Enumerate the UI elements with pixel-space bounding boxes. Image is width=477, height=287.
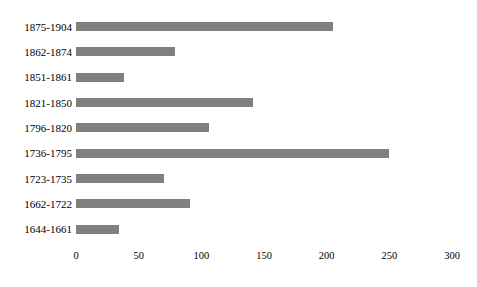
x-tick-label: 200: [319, 250, 335, 261]
x-tick-label: 100: [193, 250, 209, 261]
category-label: 1875-1904: [2, 21, 72, 33]
category-label: 1851-1861: [2, 71, 72, 83]
bar: [76, 149, 389, 158]
category-label: 1821-1850: [2, 97, 72, 109]
bar-row: [76, 217, 452, 242]
bar: [76, 47, 175, 56]
x-tick-label: 50: [133, 250, 144, 261]
bar: [76, 22, 333, 31]
bar-row: [76, 39, 452, 64]
bar-chart: 1875-19041862-18741851-18611821-18501796…: [0, 0, 477, 287]
x-tick-label: 250: [381, 250, 397, 261]
value-axis-labels: 050100150200250300: [76, 250, 452, 270]
bar: [76, 225, 119, 234]
bar-row: [76, 65, 452, 90]
category-label: 1723-1735: [2, 173, 72, 185]
bar-row: [76, 90, 452, 115]
bar: [76, 174, 164, 183]
bar-row: [76, 191, 452, 216]
bar-row: [76, 141, 452, 166]
bar: [76, 199, 190, 208]
category-label: 1862-1874: [2, 46, 72, 58]
category-label: 1736-1795: [2, 147, 72, 159]
category-label: 1662-1722: [2, 198, 72, 210]
bar: [76, 98, 253, 107]
category-label: 1796-1820: [2, 122, 72, 134]
x-tick-label: 0: [73, 250, 78, 261]
x-tick-label: 150: [256, 250, 272, 261]
bar-row: [76, 166, 452, 191]
bar-row: [76, 115, 452, 140]
bar: [76, 73, 124, 82]
bar: [76, 123, 209, 132]
category-label: 1644-1661: [2, 223, 72, 235]
x-tick-label: 300: [444, 250, 460, 261]
plot-area: [76, 14, 452, 242]
bar-row: [76, 14, 452, 39]
category-axis-labels: 1875-19041862-18741851-18611821-18501796…: [0, 14, 72, 242]
